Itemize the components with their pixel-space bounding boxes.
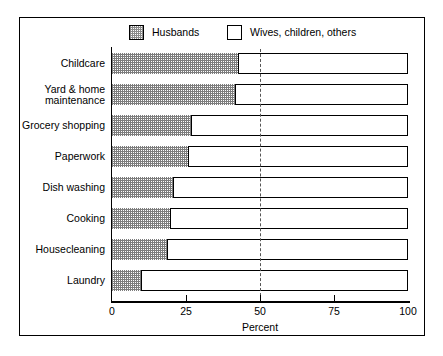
x-axis-tick: [334, 295, 335, 302]
x-axis-ticklabel: 50: [254, 305, 266, 317]
bar-segment-husbands: [112, 84, 236, 105]
bar-segment-husbands: [112, 177, 174, 198]
x-axis-ticklabel: 75: [328, 305, 340, 317]
reference-line-50-percent: [260, 49, 261, 301]
legend-swatch-husbands: [129, 25, 144, 40]
legend-swatch-wives-children-others: [227, 25, 242, 40]
bar-segment-husbands: [112, 53, 239, 74]
x-axis-ticklabel: 100: [399, 305, 417, 317]
bar-segment-husbands: [112, 115, 192, 136]
chart-legend: Husbands Wives, children, others: [20, 23, 424, 45]
chart-figure: Husbands Wives, children, others Childca…: [19, 17, 425, 336]
x-axis-title: Percent: [112, 321, 408, 333]
legend-entry-husbands[interactable]: Husbands: [129, 23, 199, 41]
category-label: Laundry: [67, 275, 105, 287]
category-label: Yard & home maintenance: [44, 83, 105, 106]
x-axis-ticklabel: 0: [109, 305, 115, 317]
category-label: Dish washing: [43, 182, 105, 194]
category-label: Grocery shopping: [22, 120, 105, 132]
bar-segment-husbands: [112, 208, 171, 229]
category-label: Housecleaning: [36, 244, 105, 256]
category-label: Paperwork: [55, 151, 105, 163]
category-label: Cooking: [66, 213, 105, 225]
x-axis-tick: [260, 295, 261, 302]
legend-label-wives-children-others: Wives, children, others: [250, 27, 356, 38]
plot-area: ChildcareYard & home maintenanceGrocery …: [112, 53, 408, 301]
bar-segment-husbands: [112, 239, 168, 260]
x-axis-ticklabel: 25: [180, 305, 192, 317]
bar-segment-husbands: [112, 270, 142, 291]
legend-label-husbands: Husbands: [152, 27, 199, 38]
x-axis-tick: [186, 295, 187, 302]
bar-segment-husbands: [112, 146, 189, 167]
legend-entry-wives-children-others[interactable]: Wives, children, others: [227, 23, 356, 41]
category-label: Childcare: [61, 58, 105, 70]
